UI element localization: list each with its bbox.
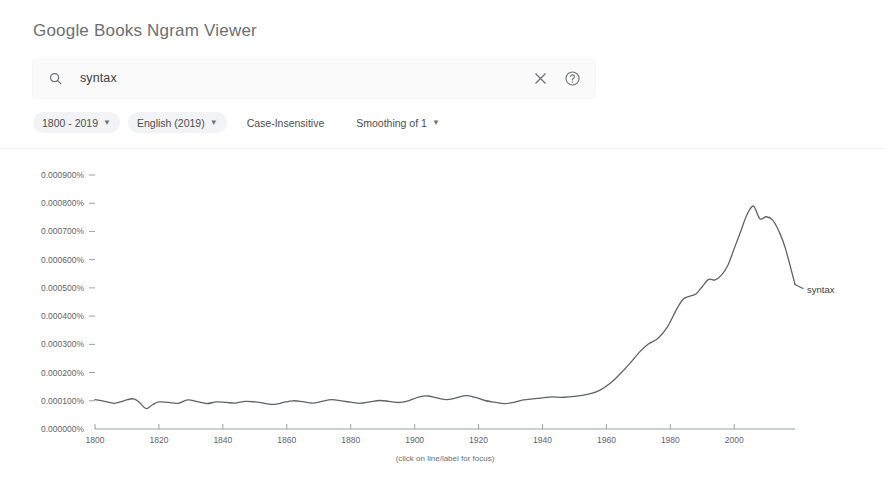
y-axis-tick-label: 0.000600% bbox=[41, 255, 84, 265]
y-axis-tick-label: 0.000500% bbox=[41, 283, 84, 293]
ngram-chart[interactable]: 0.000900%0.000800%0.000700%0.000600%0.00… bbox=[0, 150, 884, 484]
chevron-down-icon: ▼ bbox=[210, 118, 218, 126]
y-axis-tick-label: 0.000100% bbox=[41, 396, 84, 406]
x-axis-tick-label: 1840 bbox=[213, 435, 232, 445]
x-axis-tick-label: 1860 bbox=[277, 435, 296, 445]
x-axis-tick-label: 1940 bbox=[533, 435, 552, 445]
x-axis-tick-label: 1820 bbox=[149, 435, 168, 445]
series-label-leader bbox=[795, 285, 803, 289]
chip-corpus-label: English (2019) bbox=[137, 117, 205, 129]
y-axis-tick-label: 0.000300% bbox=[41, 339, 84, 349]
x-axis-tick-label: 1900 bbox=[405, 435, 424, 445]
y-axis-tick-label: 0.000700% bbox=[41, 226, 84, 236]
series-label-syntax[interactable]: syntax bbox=[807, 284, 835, 295]
chevron-down-icon: ▼ bbox=[103, 118, 111, 126]
y-axis-tick-label: 0.000900% bbox=[41, 170, 84, 180]
ngram-viewer-page: Google Books Ngram Viewer syntax bbox=[0, 0, 884, 484]
filter-chips: 1800 - 2019 ▼ English (2019) ▼ Case-Inse… bbox=[33, 112, 460, 133]
header-divider bbox=[0, 148, 884, 149]
y-axis-tick-label: 0.000200% bbox=[41, 368, 84, 378]
x-axis-tick-label: 1980 bbox=[661, 435, 680, 445]
chip-case-sensitivity[interactable]: Case-Insensitive bbox=[235, 112, 337, 133]
y-axis-tick-label: 0.000400% bbox=[41, 311, 84, 321]
chip-smoothing[interactable]: Smoothing of 1 ▼ bbox=[344, 112, 452, 133]
y-axis-tick-label: 0.000000% bbox=[41, 424, 84, 434]
x-axis-tick-label: 1960 bbox=[597, 435, 616, 445]
chip-date-range-label: 1800 - 2019 bbox=[42, 117, 98, 129]
help-icon[interactable] bbox=[564, 70, 581, 87]
chip-corpus[interactable]: English (2019) ▼ bbox=[128, 112, 227, 133]
x-axis-tick-label: 1920 bbox=[469, 435, 488, 445]
chart-footnote: (click on line/label for focus) bbox=[396, 454, 495, 463]
page-title: Google Books Ngram Viewer bbox=[33, 21, 257, 41]
chip-case-sensitivity-label: Case-Insensitive bbox=[247, 117, 325, 129]
chip-date-range[interactable]: 1800 - 2019 ▼ bbox=[33, 112, 120, 133]
chart-canvas[interactable]: 0.000900%0.000800%0.000700%0.000600%0.00… bbox=[0, 150, 884, 484]
search-bar[interactable]: syntax bbox=[33, 60, 595, 98]
y-axis-tick-label: 0.000800% bbox=[41, 198, 84, 208]
chip-smoothing-label: Smoothing of 1 bbox=[356, 117, 427, 129]
close-icon[interactable] bbox=[533, 71, 548, 86]
x-axis-tick-label: 1880 bbox=[341, 435, 360, 445]
series-line-syntax[interactable] bbox=[95, 206, 795, 409]
chevron-down-icon: ▼ bbox=[432, 118, 440, 126]
x-axis-tick-label: 2000 bbox=[725, 435, 744, 445]
x-axis-tick-label: 1800 bbox=[86, 435, 105, 445]
search-icon bbox=[48, 71, 63, 86]
search-input[interactable]: syntax bbox=[80, 71, 117, 85]
